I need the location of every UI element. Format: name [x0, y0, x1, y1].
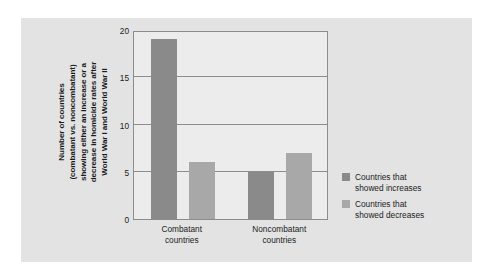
bar [286, 153, 312, 219]
y-tick-label: 0 [107, 215, 129, 225]
legend-item: Countries that showed increases [342, 172, 468, 194]
legend-swatch-icon [342, 173, 350, 181]
y-tick-label: 15 [107, 73, 129, 83]
legend-item: Countries that showed decreases [342, 199, 468, 221]
chart-legend: Countries that showed increasesCountries… [342, 172, 468, 226]
y-tick-label: 5 [107, 168, 129, 178]
x-tick-label: Combatant countries [133, 224, 231, 246]
bar [151, 39, 177, 219]
x-tick-label: Noncombatant countries [231, 224, 329, 246]
chart-figure: Number of countries (combatant vs. nonco… [0, 0, 494, 279]
x-axis-tick-labels: Combatant countriesNoncombatant countrie… [133, 224, 328, 254]
bar [189, 162, 215, 219]
y-tick-label: 20 [107, 26, 129, 36]
legend-swatch-icon [342, 200, 350, 208]
legend-label: Countries that showed increases [355, 172, 421, 194]
bar [248, 172, 274, 219]
y-axis-label-text: Number of countries (combatant vs. nonco… [57, 62, 111, 183]
y-axis-tick-labels: 20151050 [105, 31, 129, 220]
y-tick-label: 10 [107, 121, 129, 131]
legend-label: Countries that showed decreases [355, 199, 424, 221]
plot-area [133, 31, 328, 220]
